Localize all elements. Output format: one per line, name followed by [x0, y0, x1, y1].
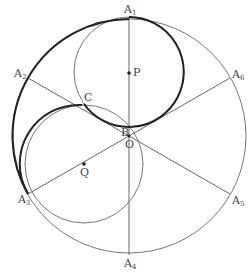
label-a3: A3	[18, 194, 30, 207]
label-a6: A6	[232, 69, 244, 82]
label-a2: A2	[14, 68, 26, 81]
label-a5: A5	[232, 195, 244, 208]
label-a1: A1	[124, 4, 136, 17]
point-p-dot	[127, 71, 131, 75]
label-q: Q	[80, 167, 89, 178]
label-p: P	[133, 67, 140, 78]
label-o: O	[125, 139, 134, 150]
label-a4: A4	[124, 258, 136, 271]
label-b: B	[121, 127, 129, 138]
label-c: C	[84, 92, 92, 103]
geometry-diagram: A1 A2 A3 A4 A5 A6 P Q O B C	[0, 0, 252, 273]
